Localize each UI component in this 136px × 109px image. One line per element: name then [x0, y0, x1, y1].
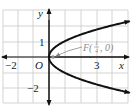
origin-label: O [35, 59, 43, 71]
focus-label-suffix: , 0) [100, 42, 114, 54]
focus-point [51, 55, 55, 59]
parabola-lower-branch [49, 57, 130, 93]
x-tick-label-3: 3 [94, 59, 100, 71]
y-tick-label-neg2: −2 [27, 82, 39, 94]
parabola-diagram: F( 1 4 , 0) y x O −2 3 1 −2 [0, 0, 136, 109]
focus-label-numerator: 1 [95, 40, 98, 46]
focus-label: F( [82, 42, 93, 54]
x-axis-label: x [118, 59, 124, 71]
focus-label-denominator: 4 [95, 48, 98, 54]
focus-leader-arrow [56, 47, 82, 56]
x-tick-label-neg2: −2 [5, 59, 17, 71]
y-axis-label: y [37, 7, 43, 19]
y-tick-label-1: 1 [39, 36, 45, 48]
